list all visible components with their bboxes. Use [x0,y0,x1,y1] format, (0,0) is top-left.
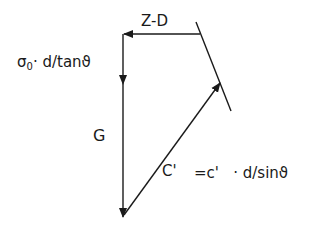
force-polygon-diagram [0,0,325,233]
label-sigma-term: σ0· d/tanϑ [17,55,91,70]
label-c-prime: C' [162,164,177,179]
sigma-subscript: 0 [27,61,33,72]
label-z-d: Z-D [141,14,168,29]
reference-line [196,22,231,111]
label-g: G [93,128,105,144]
sigma-symbol: σ [17,53,27,71]
sigma-term-text: · d/tanϑ [33,53,91,71]
c-prime-arrow [124,83,220,215]
label-c-equation: =c' · d/sinϑ [194,166,288,181]
